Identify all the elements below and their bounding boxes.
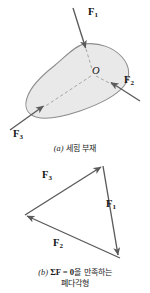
caption-panel-a: (a) 세힘 부재 — [0, 143, 150, 154]
caption-a-index: (a) — [54, 144, 64, 153]
force-label-f2-b: F2 — [53, 238, 63, 249]
force-vector-f1-a — [73, 8, 86, 48]
panel-b-force-triangle — [25, 166, 120, 258]
force-label-f3-a: F3 — [13, 129, 23, 140]
force-vector-f3-b — [25, 167, 101, 215]
caption-b-text-line1: 을 만족하는 — [74, 268, 112, 277]
force-label-f2-a: F2 — [124, 75, 134, 86]
caption-a-text: 세힘 부재 — [66, 144, 97, 153]
point-label-o: O — [92, 66, 100, 77]
force-vector-f2-b — [27, 216, 120, 258]
force-label-f1-b: F1 — [106, 199, 116, 210]
force-label-f3-b: F3 — [42, 170, 52, 181]
figure-root: F1 F2 F3 O (a) 세힘 부재 F1 F2 F3 (b) ΣF = 0… — [0, 0, 150, 293]
caption-panel-b: (b) ΣF = 0을 만족하는 폐다각형 — [0, 267, 150, 289]
caption-b-index: (b) — [38, 268, 48, 277]
caption-b-equation: ΣF = 0 — [50, 267, 74, 277]
force-label-f1-a: F1 — [88, 7, 98, 18]
caption-b-text-line2: 폐다각형 — [61, 279, 89, 288]
